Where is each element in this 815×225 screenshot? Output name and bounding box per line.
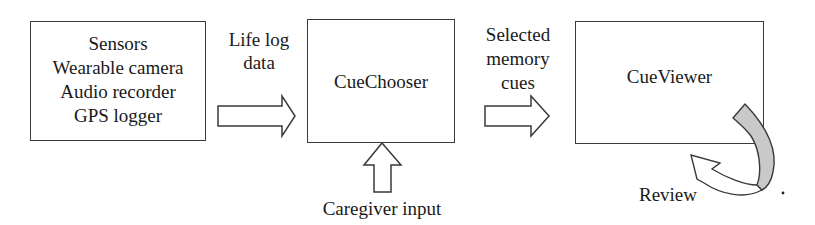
review-arrow-icon	[691, 155, 762, 195]
arrows-layer	[0, 0, 815, 225]
life-log-arrow-icon	[218, 96, 295, 136]
review-ribbon-icon	[733, 104, 774, 190]
diagram-canvas: Sensors Wearable camera Audio recorder G…	[0, 0, 815, 225]
memory-cues-arrow-icon	[485, 96, 549, 136]
caregiver-input-arrow-icon	[364, 143, 401, 192]
stray-dot	[782, 192, 785, 195]
